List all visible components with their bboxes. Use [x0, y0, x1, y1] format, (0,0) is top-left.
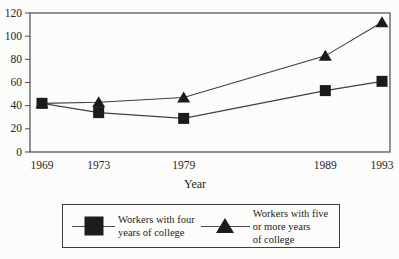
svg-text:0: 0 [16, 146, 22, 158]
chart-legend: Workers with four years of college Worke… [62, 204, 340, 248]
svg-text:60: 60 [11, 76, 23, 88]
triangle-marker-icon [201, 215, 250, 237]
svg-text:1989: 1989 [314, 159, 337, 171]
svg-text:Year: Year [184, 177, 206, 191]
svg-text:100: 100 [5, 30, 23, 42]
legend-label-five-plus-years: Workers with five or more years of colle… [253, 207, 329, 246]
legend-item-four-years: Workers with four years of college [72, 213, 195, 239]
line-chart: 02040608010012019691973197919891993Year [0, 0, 399, 198]
svg-text:1973: 1973 [87, 159, 110, 171]
svg-text:120: 120 [5, 7, 23, 19]
chart-figure: 02040608010012019691973197919891993Year … [0, 0, 399, 259]
svg-text:1979: 1979 [172, 159, 195, 171]
svg-text:40: 40 [11, 99, 23, 111]
svg-text:20: 20 [11, 122, 23, 134]
legend-label-four-years: Workers with four years of college [118, 213, 195, 239]
svg-text:1969: 1969 [31, 159, 54, 171]
legend-item-five-plus-years: Workers with five or more years of colle… [201, 207, 329, 246]
svg-text:1993: 1993 [371, 159, 394, 171]
square-marker-icon [72, 215, 115, 237]
svg-text:80: 80 [11, 53, 23, 65]
